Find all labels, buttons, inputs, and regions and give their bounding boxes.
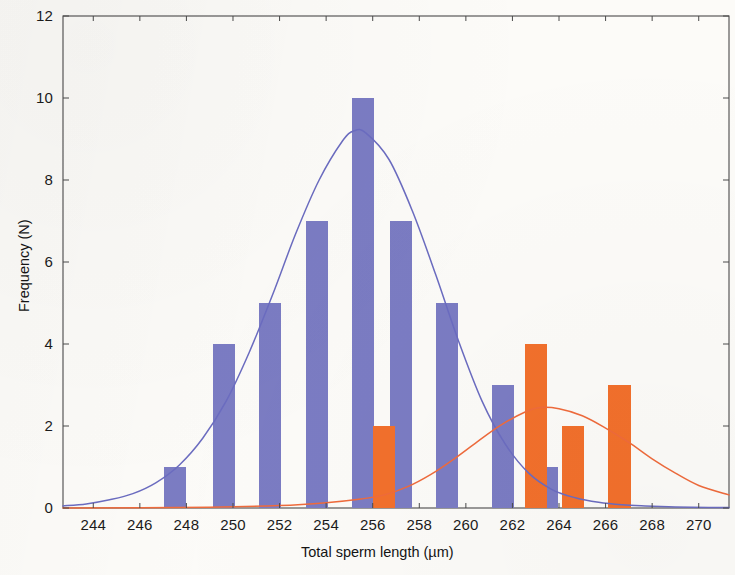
y-tick-label: 8 bbox=[19, 171, 53, 188]
y-tick-label: 4 bbox=[19, 335, 53, 352]
histogram-bar bbox=[352, 98, 374, 508]
x-tick-label: 244 bbox=[74, 516, 112, 533]
blue-histogram-bars bbox=[164, 98, 559, 508]
histogram-bar bbox=[608, 385, 630, 508]
histogram-bar bbox=[306, 221, 328, 508]
histogram-bar bbox=[164, 467, 186, 508]
histogram-bar bbox=[373, 426, 395, 508]
x-tick-label: 266 bbox=[587, 516, 625, 533]
x-tick-label: 260 bbox=[447, 516, 485, 533]
y-axis-title: Frequency (N) bbox=[16, 219, 32, 312]
x-axis-title: Total sperm length (µm) bbox=[301, 544, 454, 560]
histogram-bar bbox=[259, 303, 281, 508]
x-tick-label: 246 bbox=[121, 516, 159, 533]
x-tick-label: 254 bbox=[307, 516, 345, 533]
x-tick-label: 270 bbox=[680, 516, 718, 533]
histogram-bar bbox=[436, 303, 458, 508]
y-tick-label: 10 bbox=[19, 89, 53, 106]
x-tick-label: 258 bbox=[400, 516, 438, 533]
x-tick-label: 262 bbox=[493, 516, 531, 533]
histogram-chart bbox=[0, 0, 735, 575]
histogram-bar bbox=[213, 344, 235, 508]
y-tick-label: 12 bbox=[19, 7, 53, 24]
histogram-bar bbox=[492, 385, 514, 508]
x-tick-label: 256 bbox=[354, 516, 392, 533]
x-tick-label: 250 bbox=[214, 516, 252, 533]
figure-canvas: 2442462482502522542562582602622642662682… bbox=[0, 0, 735, 575]
x-tick-label: 268 bbox=[633, 516, 671, 533]
x-tick-label: 264 bbox=[540, 516, 578, 533]
histogram-bar bbox=[525, 344, 547, 508]
histogram-bar bbox=[562, 426, 584, 508]
y-tick-label: 2 bbox=[19, 417, 53, 434]
x-tick-label: 252 bbox=[261, 516, 299, 533]
y-tick-label: 0 bbox=[19, 499, 53, 516]
x-tick-label: 248 bbox=[167, 516, 205, 533]
